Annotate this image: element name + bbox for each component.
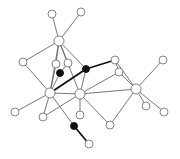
graph-edge bbox=[110, 89, 136, 125]
graph-node bbox=[159, 56, 167, 64]
graph-node bbox=[19, 58, 27, 66]
graph-node bbox=[75, 89, 85, 99]
graph-edge bbox=[50, 93, 74, 126]
graph-node bbox=[131, 84, 141, 94]
graph-edge bbox=[136, 60, 163, 89]
filled-node bbox=[57, 70, 64, 77]
graph-edge bbox=[59, 41, 80, 94]
graph-node bbox=[54, 36, 64, 46]
graph-node bbox=[64, 59, 72, 67]
graph-edge bbox=[59, 41, 86, 69]
graph-node bbox=[76, 111, 84, 119]
highlighted-edge bbox=[86, 60, 115, 69]
graph-edge bbox=[23, 62, 50, 93]
graph-node bbox=[11, 108, 19, 116]
graph-node bbox=[77, 8, 85, 16]
graph-nodes bbox=[11, 8, 168, 148]
filled-node bbox=[71, 123, 78, 130]
graph-node bbox=[52, 60, 60, 68]
graph-node bbox=[39, 113, 47, 121]
graph-node bbox=[160, 108, 168, 116]
graph-node bbox=[142, 102, 150, 110]
graph-edge bbox=[80, 94, 110, 125]
graph-node bbox=[48, 10, 56, 18]
graph-node bbox=[45, 88, 55, 98]
graph-edges bbox=[15, 12, 164, 144]
graph-edge bbox=[80, 89, 136, 94]
graph-edge bbox=[23, 41, 59, 62]
graph-node bbox=[106, 121, 114, 129]
filled-node bbox=[83, 66, 90, 73]
graph-edge bbox=[59, 12, 81, 41]
graph-node bbox=[111, 56, 119, 64]
network-graph bbox=[0, 0, 180, 159]
graph-node bbox=[115, 68, 123, 76]
graph-edge bbox=[15, 93, 50, 112]
graph-node bbox=[85, 140, 93, 148]
